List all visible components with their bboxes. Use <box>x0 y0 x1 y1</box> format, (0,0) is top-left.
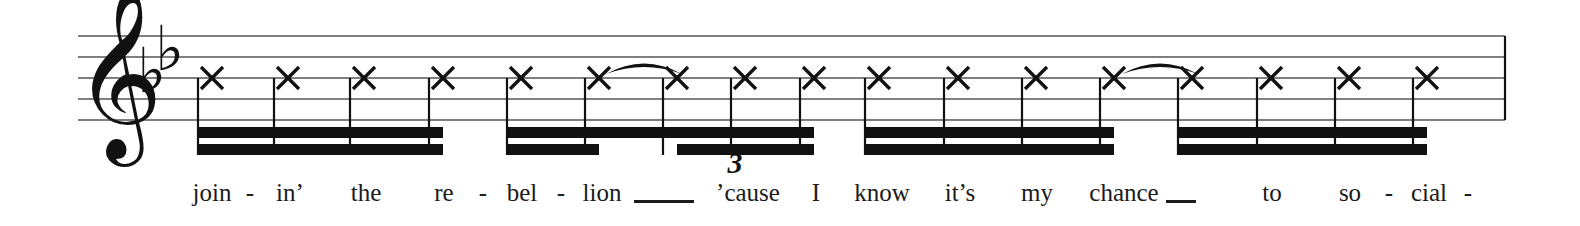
lyric-syllable: bel <box>507 178 538 208</box>
lyric-syllable: I <box>812 178 820 208</box>
beam-secondary-1-1 <box>197 144 443 155</box>
staff-lines <box>78 36 1505 120</box>
lyric-syllable: to <box>1262 178 1281 208</box>
lyric-line: join-in’there-bel-lion’causeIknowit’smyc… <box>0 178 1580 218</box>
lyric-hyphen: - <box>1385 178 1393 208</box>
lyric-syllable: it’s <box>945 178 976 208</box>
lyric-extender-2 <box>1166 200 1196 203</box>
beams <box>197 127 1427 155</box>
triplet-number: 3 <box>728 146 743 180</box>
lyric-syllable: cial <box>1411 178 1447 208</box>
beam-secondary-4-1 <box>1177 144 1427 155</box>
lyric-hyphen: - <box>557 178 565 208</box>
beam-secondary-2-2 <box>677 144 814 155</box>
beam-primary-1 <box>197 127 443 138</box>
beam-primary-2 <box>506 127 814 138</box>
lyric-hyphen: - <box>246 178 254 208</box>
lyric-extender-1 <box>634 200 694 203</box>
key-signature-flat-e: ♭ <box>155 18 184 80</box>
lyric-syllable: chance <box>1089 178 1158 208</box>
lyric-syllable: my <box>1021 178 1053 208</box>
beam-secondary-3-1 <box>864 144 1114 155</box>
lyric-hyphen: - <box>479 178 487 208</box>
lyric-syllable: so <box>1339 178 1361 208</box>
music-score-system: 𝄞 ♭ ♭ 3 join-in’there-bel-lion’causeIkno… <box>0 0 1580 226</box>
lyric-syllable: ’cause <box>716 178 780 208</box>
lyric-syllable: join <box>193 178 232 208</box>
lyric-hyphen: - <box>1464 178 1472 208</box>
lyric-syllable: re <box>434 178 453 208</box>
lyric-syllable: the <box>351 178 382 208</box>
lyric-syllable: lion <box>583 178 622 208</box>
beam-primary-4 <box>1177 127 1427 138</box>
lyric-syllable: know <box>854 178 910 208</box>
lyric-syllable: in’ <box>276 178 304 208</box>
beam-primary-3 <box>864 127 1114 138</box>
note-stems <box>198 78 1413 155</box>
